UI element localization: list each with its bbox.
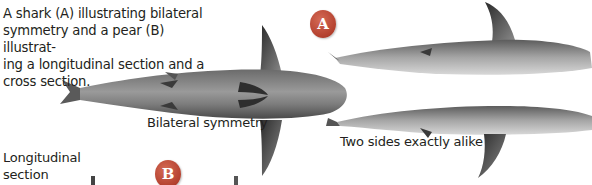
longitudinal-label-line1: Longitudinal [3,150,81,165]
two-sides-alike-label: Two sides exactly alike [340,134,483,149]
bilateral-symmetry-label: Bilateral symmetry [147,115,268,130]
caption-line: cross section. [3,73,213,90]
figure: A shark (A) illustrating bilateral symme… [0,0,592,185]
longitudinal-label-line2: section [3,167,48,182]
caption-line: A shark (A) illustrating bilateral [3,5,213,22]
caption-line: symmetry and a pear (B) illustrat- [3,22,213,56]
figure-caption: A shark (A) illustrating bilateral symme… [3,5,213,90]
shark-side-view-upper [328,2,592,75]
badge-b: B [155,160,181,185]
caption-line: ing a longitudinal section and a [3,56,213,73]
badge-a: A [310,10,336,38]
